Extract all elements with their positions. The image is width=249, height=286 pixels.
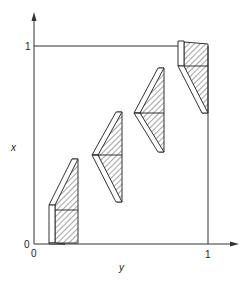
shape-1-white-strip [49,205,55,243]
y-max-label: 1 [25,41,31,52]
shape-4 [178,41,208,113]
diagram-figure: 1 1 0 0 x y [0,0,249,286]
x-origin-label: 0 [31,248,37,259]
x-axis-label: y [118,262,125,273]
y-axis-arrow-icon [32,12,37,21]
shape-3 [134,68,164,152]
x-max-label: 1 [205,249,211,260]
shape-1 [49,159,78,244]
y-origin-label: 0 [24,239,30,250]
x-axis-arrow-icon [230,242,239,247]
diagram-svg: 1 1 0 0 x y [0,0,249,286]
shape-2 [92,112,122,202]
shape-4-white-strip [178,41,184,66]
y-axis-label: x [10,142,17,153]
